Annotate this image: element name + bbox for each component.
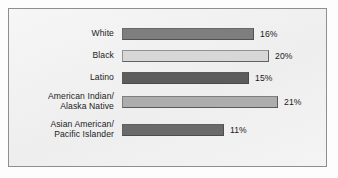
bar-and-value: 20% bbox=[122, 50, 293, 62]
bar-category-label: White bbox=[92, 29, 114, 39]
chart-figure: White16%Black20%Latino15%American Indian… bbox=[0, 0, 338, 178]
bar-value-label: 15% bbox=[255, 73, 273, 83]
plot-area: White16%Black20%Latino15%American Indian… bbox=[9, 9, 326, 166]
bar bbox=[122, 28, 254, 40]
bar-category-label: American Indian/ Alaska Native bbox=[48, 92, 114, 111]
bar-category-label: Black bbox=[92, 51, 114, 61]
bar-value-label: 21% bbox=[284, 97, 302, 107]
bar-and-value: 16% bbox=[122, 28, 278, 40]
bar-and-value: 11% bbox=[122, 124, 247, 136]
bar-row: American Indian/ Alaska Native21% bbox=[9, 91, 326, 113]
bar bbox=[122, 124, 224, 136]
bar-category-label: Asian American/ Pacific Islander bbox=[50, 120, 114, 139]
bar-row: Latino15% bbox=[9, 67, 326, 89]
bar-row: White16% bbox=[9, 23, 326, 45]
bar-and-value: 21% bbox=[122, 96, 302, 108]
bar-and-value: 15% bbox=[122, 72, 273, 84]
bar-row: Asian American/ Pacific Islander11% bbox=[9, 119, 326, 141]
bar-category-label: Latino bbox=[90, 73, 114, 83]
bar-value-label: 16% bbox=[260, 29, 278, 39]
bar-value-label: 11% bbox=[230, 125, 247, 135]
chart-frame: White16%Black20%Latino15%American Indian… bbox=[8, 8, 327, 167]
bar bbox=[122, 96, 278, 108]
bar bbox=[122, 50, 269, 62]
bar-value-label: 20% bbox=[275, 51, 293, 61]
bar bbox=[122, 72, 249, 84]
bar-row: Black20% bbox=[9, 45, 326, 67]
